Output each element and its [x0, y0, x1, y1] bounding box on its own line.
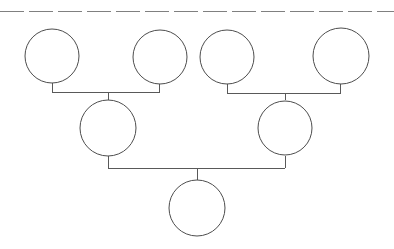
- family-tree-canvas: [0, 0, 394, 249]
- family-tree-diagram: [0, 0, 394, 249]
- node-circle-g1-1[interactable]: [25, 29, 79, 83]
- bracket-left-top: [52, 83, 160, 100]
- bracket-right-top: [227, 84, 341, 100]
- node-circle-g1-4[interactable]: [313, 28, 369, 84]
- node-circle-g2-1[interactable]: [80, 100, 136, 156]
- node-circle-g3-1[interactable]: [169, 180, 225, 236]
- node-circle-g2-2[interactable]: [258, 101, 312, 155]
- node-circle-g1-3[interactable]: [200, 30, 254, 84]
- node-circle-g1-2[interactable]: [133, 30, 187, 84]
- bracket-bottom: [108, 156, 286, 180]
